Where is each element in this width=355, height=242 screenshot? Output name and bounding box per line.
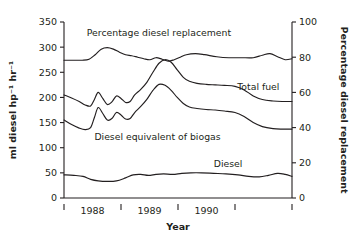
y-axis-left-tick-label: 100 bbox=[39, 142, 57, 153]
y-axis-left-tick-label: 250 bbox=[39, 67, 57, 78]
line-chart-canvas: 0501001502002503003500204060801001988198… bbox=[0, 0, 355, 242]
y-axis-left-title: ml diesel hp⁻¹ hr⁻¹ bbox=[7, 61, 18, 159]
series-label-total-fuel: Total fuel bbox=[236, 81, 279, 92]
series-line-diesel bbox=[64, 173, 292, 182]
x-axis-tick-label: 1988 bbox=[80, 205, 104, 216]
y-axis-right-tick-label: 20 bbox=[299, 157, 311, 168]
y-axis-left-tick-label: 350 bbox=[39, 16, 57, 27]
y-axis-left-tick-label: 0 bbox=[51, 192, 57, 203]
series-label-diesel: Diesel bbox=[214, 158, 243, 169]
x-axis-title: Year bbox=[165, 221, 190, 232]
y-axis-right-tick-label: 100 bbox=[299, 16, 317, 27]
y-axis-right-tick-label: 80 bbox=[299, 52, 311, 63]
y-axis-left-tick-label: 50 bbox=[45, 167, 57, 178]
series-label-percentage-diesel-replacement: Percentage diesel replacement bbox=[87, 27, 232, 38]
y-axis-right-tick-label: 40 bbox=[299, 122, 311, 133]
y-axis-left-tick-label: 150 bbox=[39, 117, 57, 128]
y-axis-right-tick-label: 0 bbox=[299, 192, 305, 203]
y-axis-right-title: Percentage diesel replacement bbox=[339, 27, 350, 194]
series-line-percentage-diesel-replacement bbox=[64, 48, 292, 62]
y-axis-left-tick-label: 200 bbox=[39, 92, 57, 103]
x-axis-tick-label: 1990 bbox=[194, 205, 218, 216]
series-label-diesel-equivalent-of-biogas: Diesel equivalent of biogas bbox=[94, 131, 220, 142]
x-axis-tick-label: 1989 bbox=[137, 205, 161, 216]
y-axis-right-tick-label: 60 bbox=[299, 87, 311, 98]
chart-figure: 0501001502002503003500204060801001988198… bbox=[0, 0, 355, 242]
y-axis-left-tick-label: 300 bbox=[39, 42, 57, 53]
